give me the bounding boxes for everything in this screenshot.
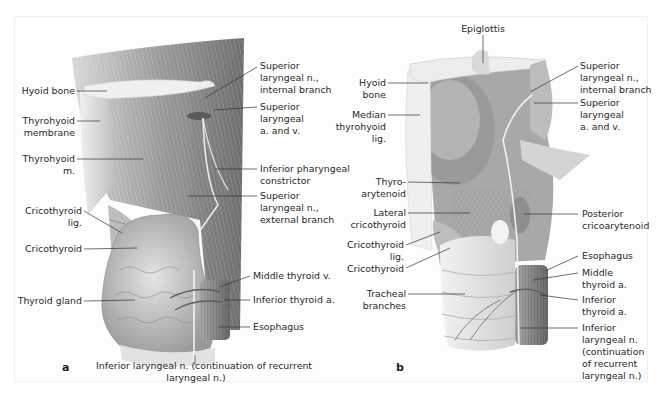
- label-middle-thyroid-a: Middle thyroid a.: [582, 267, 627, 291]
- label-cricothyroid-lig-b: Cricothyroid lig.: [336, 239, 404, 263]
- label-median-thyrohyoid-lig: Median thyrohyoid lig.: [330, 109, 386, 145]
- label-inf-pharyngeal-constrictor: Inferior pharyngeal constrictor: [260, 163, 350, 187]
- label-inferior-thyroid-a-b: Inferior thyroid a.: [582, 294, 627, 318]
- label-posterior-cricoarytenoid: Posterior cricoarytenoid: [582, 208, 649, 232]
- label-inf-laryngeal-n-b: Inferior laryngeal n. (continuation of r…: [582, 322, 644, 382]
- panel-letter-b: b: [396, 361, 404, 374]
- panel-letter-a: a: [62, 361, 69, 374]
- label-epiglottis: Epiglottis: [455, 23, 511, 35]
- label-hyoid-bone-b: Hyoid bone: [340, 77, 386, 101]
- label-sup-laryngeal-n-internal-a: Superior laryngeal n., internal branch: [260, 60, 332, 96]
- label-sup-laryngeal-a-v-a: Superior laryngeal a. and v.: [260, 101, 304, 137]
- label-sup-laryngeal-a-v-b: Superior laryngeal a. and v.: [580, 97, 624, 133]
- panel-b-art: [406, 50, 590, 351]
- panel-a-art: [72, 38, 244, 367]
- label-inferior-thyroid-a-a: Inferior thyroid a.: [253, 294, 335, 306]
- label-thyrohyoid-membrane: Thyrohyoid membrane: [14, 115, 75, 139]
- label-lateral-cricothyroid: Lateral cricothyroid: [340, 207, 406, 231]
- label-tracheal-branches: Tracheal branches: [340, 288, 406, 312]
- label-sup-laryngeal-n-internal-b: Superior laryngeal n., internal branch: [580, 60, 652, 96]
- label-thyroarytenoid: Thyro- arytenoid: [340, 176, 406, 200]
- label-hyoid-bone-a: Hyoid bone: [20, 85, 75, 97]
- label-esophagus-b: Esophagus: [582, 250, 633, 262]
- label-middle-thyroid-v: Middle thyroid v.: [253, 270, 331, 282]
- label-cricothyroid-b: Cricothyroid: [336, 263, 404, 275]
- label-sup-laryngeal-n-external: Superior laryngeal n., external branch: [260, 190, 334, 226]
- label-inf-laryngeal-n-a: Inferior laryngeal n. (continuation of r…: [96, 360, 296, 384]
- label-thyroid-gland: Thyroid gland: [14, 295, 82, 307]
- label-esophagus-a: Esophagus: [253, 321, 304, 333]
- label-cricothyroid-lig-a: Cricothyroid lig.: [14, 205, 82, 229]
- label-cricothyroid-a: Cricothyroid: [14, 243, 82, 255]
- label-thyrohyoid-m: Thyrohyoid m.: [14, 153, 75, 177]
